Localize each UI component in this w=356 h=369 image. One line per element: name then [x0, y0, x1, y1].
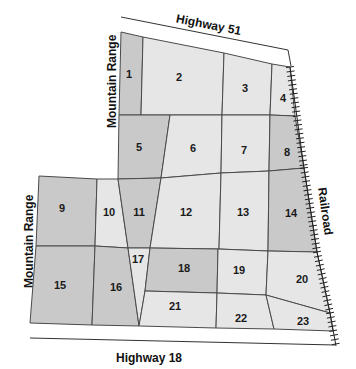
- parcel-label-6: 6: [190, 142, 196, 154]
- parcel-label-11: 11: [133, 206, 145, 218]
- parcel-map: Highway 51 Mountain Range Mountain Range…: [0, 0, 356, 369]
- parcel-9[interactable]: [36, 176, 97, 246]
- parcel-label-4: 4: [280, 92, 287, 104]
- parcel-label-19: 19: [233, 264, 245, 276]
- parcel-label-3: 3: [242, 82, 248, 94]
- parcel-label-20: 20: [296, 273, 308, 285]
- highway-18-road: [30, 338, 335, 345]
- parcel-label-13: 13: [237, 206, 249, 218]
- parcel-label-2: 2: [176, 71, 182, 83]
- railroad-label: Railroad: [315, 186, 336, 235]
- parcel-label-14: 14: [285, 207, 298, 219]
- parcel-2[interactable]: [141, 37, 224, 115]
- parcel-label-22: 22: [235, 312, 247, 324]
- parcel-label-18: 18: [178, 262, 190, 274]
- parcel-label-9: 9: [59, 202, 65, 214]
- parcel-label-10: 10: [103, 206, 115, 218]
- parcel-label-12: 12: [180, 206, 192, 218]
- parcel-label-21: 21: [169, 300, 181, 312]
- parcel-label-5: 5: [136, 141, 142, 153]
- parcel-label-15: 15: [54, 279, 66, 291]
- mountain-range-label-top: Mountain Range: [105, 34, 119, 128]
- parcel-label-17: 17: [132, 253, 144, 265]
- parcel-label-1: 1: [126, 68, 132, 80]
- parcel-label-16: 16: [110, 281, 122, 293]
- highway-18-label: Highway 18: [116, 351, 182, 365]
- parcel-label-8: 8: [284, 146, 290, 158]
- parcel-label-7: 7: [241, 144, 247, 156]
- parcel-label-23: 23: [297, 315, 309, 327]
